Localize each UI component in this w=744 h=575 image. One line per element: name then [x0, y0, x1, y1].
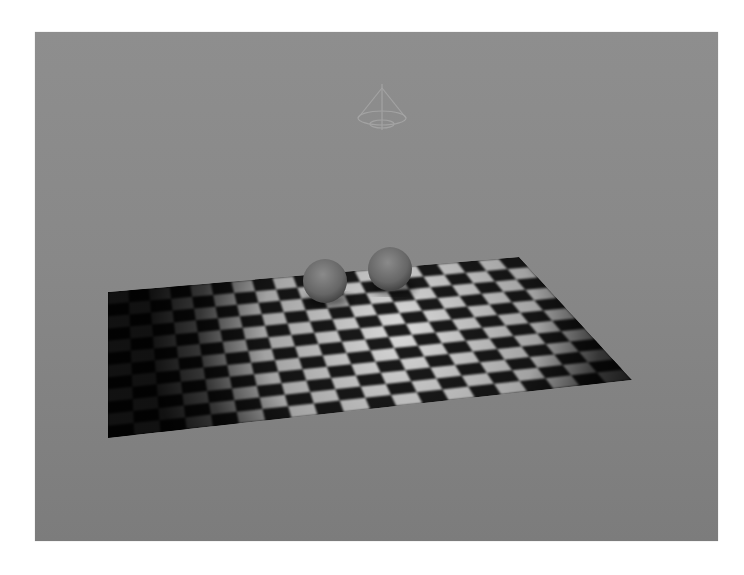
- sphere-right[interactable]: [368, 247, 412, 291]
- scene-canvas: [0, 0, 744, 575]
- spot-light-icon[interactable]: [358, 84, 406, 130]
- sphere-left[interactable]: [303, 259, 347, 303]
- checker-ground-plane[interactable]: [108, 257, 632, 438]
